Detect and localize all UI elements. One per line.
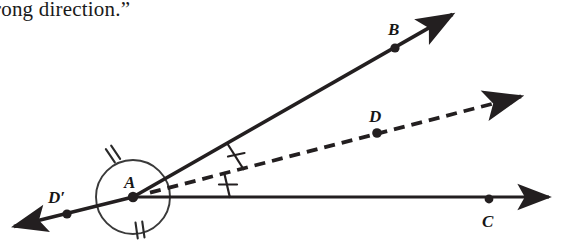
ray-ad-dashed — [150, 96, 521, 192]
point-label-c: C — [482, 212, 494, 231]
ray-adprime — [14, 197, 133, 227]
ray-ab — [133, 14, 453, 197]
point-dot-dprime — [62, 209, 71, 218]
arc-bad — [227, 143, 245, 170]
double-tick-bottom — [136, 222, 145, 239]
geometry-diagram: A B D C D′ — [0, 0, 565, 244]
point-label-a: A — [123, 173, 135, 192]
point-dot-b — [390, 43, 399, 52]
double-tick-upper-left — [106, 146, 120, 163]
point-label-d: D — [368, 107, 381, 126]
point-label-dprime: D′ — [47, 188, 65, 207]
point-label-b: B — [387, 20, 399, 39]
point-dot-a — [128, 192, 138, 202]
figure-page: rong direction.” — [0, 0, 565, 244]
point-dot-d — [372, 128, 382, 138]
point-dot-c — [485, 195, 494, 204]
